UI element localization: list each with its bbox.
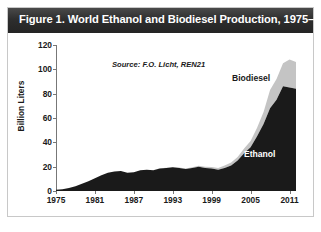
- y-tick-label: 120: [38, 40, 52, 50]
- y-tick-label: 40: [43, 137, 52, 147]
- x-tick-label: 1981: [86, 195, 105, 205]
- y-tick-label: 80: [43, 89, 52, 99]
- x-tick-mark: [56, 191, 57, 194]
- y-tick-mark: [53, 167, 56, 168]
- y-axis-title: Billion Liters: [16, 71, 26, 141]
- x-tick-mark: [290, 191, 291, 194]
- x-tick-label: 2005: [241, 195, 260, 205]
- ethanol-area: [56, 86, 296, 191]
- source-note: Source: F.O. Licht, REN21: [112, 60, 205, 69]
- x-tick-label: 2011: [280, 195, 298, 205]
- x-tick-mark: [95, 191, 96, 194]
- biodiesel-series-label: Biodiesel: [232, 73, 270, 83]
- y-tick-mark: [53, 69, 56, 70]
- figure-card: Figure 1. World Ethanol and Biodiesel Pr…: [8, 8, 313, 216]
- x-tick-label: 1987: [125, 195, 144, 205]
- figure-title-bar: Figure 1. World Ethanol and Biodiesel Pr…: [8, 8, 313, 33]
- y-tick-label: 20: [43, 162, 52, 172]
- x-tick-label: 1993: [163, 195, 182, 205]
- figure-title: Figure 1. World Ethanol and Biodiesel Pr…: [19, 13, 321, 25]
- chart-body: Billion Liters 120100806040200 197519811…: [8, 33, 313, 216]
- y-tick-label: 100: [38, 64, 52, 74]
- x-tick-mark: [173, 191, 174, 194]
- y-tick-mark: [53, 94, 56, 95]
- ethanol-series-label: Ethanol: [244, 149, 276, 159]
- x-tick-label: 1999: [202, 195, 221, 205]
- x-tick-mark: [251, 191, 252, 194]
- x-tick-mark: [212, 191, 213, 194]
- y-tick-mark: [53, 118, 56, 119]
- x-tick-label: 1975: [47, 195, 66, 205]
- y-tick-mark: [53, 142, 56, 143]
- y-tick-label: 60: [43, 113, 52, 123]
- x-tick-mark: [134, 191, 135, 194]
- plot-area: 120100806040200 197519811987199319992005…: [56, 45, 296, 191]
- y-tick-mark: [53, 45, 56, 46]
